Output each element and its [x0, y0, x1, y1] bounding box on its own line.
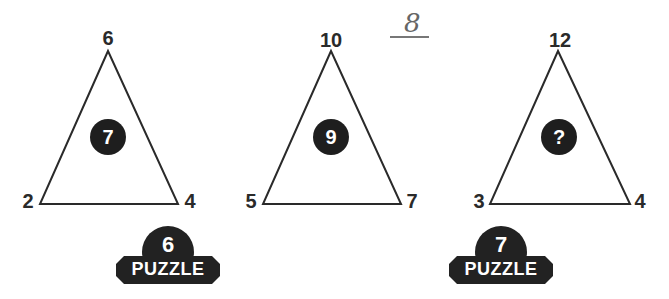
triangle-3-right-number: 4	[634, 191, 645, 211]
triangle-1-right-number: 4	[184, 191, 195, 211]
triangle-3-unknown-number: ?	[541, 119, 577, 155]
badge-number: 7	[449, 232, 553, 258]
triangle-2-right-number: 7	[406, 191, 417, 211]
badge-label: PUZZLE	[449, 259, 553, 280]
badge-number: 6	[116, 232, 220, 258]
triangle-3-left-number: 3	[473, 191, 484, 211]
triangle-3-top-number: 12	[549, 30, 571, 50]
puzzle-badge-6: 6 PUZZLE	[116, 226, 220, 288]
puzzle-badge-7: 7 PUZZLE	[449, 226, 553, 288]
triangle-2-center-number: 9	[313, 119, 349, 155]
triangle-1-left-number: 2	[22, 191, 33, 211]
triangle-2-top-number: 10	[320, 30, 342, 50]
triangle-1-top-number: 6	[102, 28, 113, 48]
badge-label: PUZZLE	[116, 259, 220, 280]
triangle-1-center-number: 7	[90, 119, 126, 155]
triangle-2-left-number: 5	[245, 191, 256, 211]
handwritten-answer: 8	[390, 10, 429, 38]
